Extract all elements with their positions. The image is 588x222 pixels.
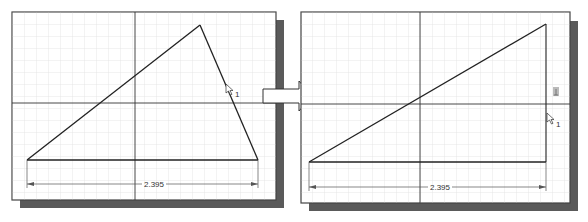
left-sketch-panel: 2.395 1 [12, 12, 284, 208]
right-dimension-label: 2.395 [430, 183, 451, 192]
left-dimension-label: 2.395 [144, 180, 165, 189]
perpendicular-constraint-icon[interactable] [553, 87, 559, 96]
constraint-diagram: 2.395 1 2.395 [0, 0, 588, 222]
left-cursor-label: 1 [235, 90, 240, 99]
right-cursor-label: 1 [556, 120, 561, 129]
right-sketch-panel: 2.395 1 [301, 12, 578, 211]
